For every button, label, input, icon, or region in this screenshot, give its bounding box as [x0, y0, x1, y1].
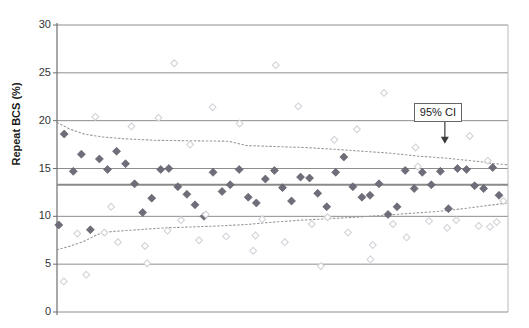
y-tick-label-25: 25 [25, 66, 51, 78]
y-tick-label-30: 30 [25, 18, 51, 30]
ci-annotation-box: 95% CI [414, 103, 462, 122]
scatter-plot [0, 0, 529, 328]
y-tick-label-15: 15 [25, 162, 51, 174]
y-tick-label-0: 0 [25, 305, 51, 317]
chart-container: Repeat BCS (%) 302520151050 95% CI [0, 0, 529, 328]
y-tick-label-5: 5 [25, 257, 51, 269]
y-tick-label-10: 10 [25, 209, 51, 221]
y-tick-label-20: 20 [25, 114, 51, 126]
